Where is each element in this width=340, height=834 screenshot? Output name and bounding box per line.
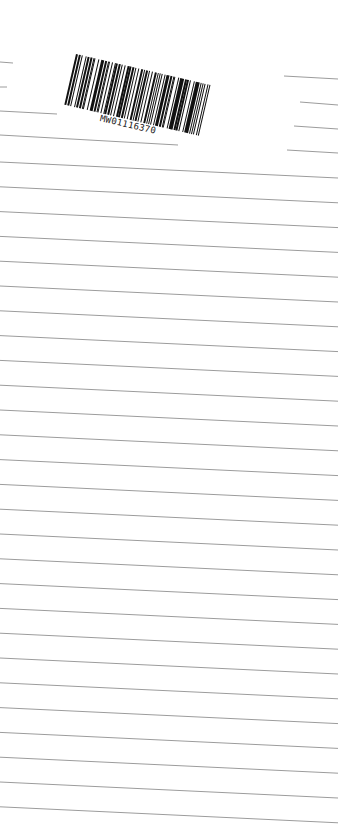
- ruled-line: [0, 336, 338, 352]
- ruled-line: [0, 360, 338, 376]
- partial-ruled-line: [294, 126, 338, 129]
- ruled-line: [0, 410, 338, 426]
- ruled-line: [0, 683, 338, 699]
- notepad-page: MW01116370: [0, 0, 340, 834]
- ruled-line: [0, 782, 338, 798]
- ruled-line: [0, 212, 338, 228]
- ruled-line: [0, 509, 338, 525]
- ruled-line: [0, 236, 338, 252]
- ruled-line: [0, 261, 338, 277]
- ruled-line: [0, 460, 338, 476]
- ruled-line: [0, 385, 338, 401]
- ruled-line: [0, 757, 338, 773]
- ruled-line: [0, 162, 338, 178]
- partial-ruled-line: [300, 102, 338, 105]
- ruled-line: [0, 187, 338, 203]
- ruled-line: [0, 559, 338, 575]
- ruled-line: [0, 484, 338, 500]
- ruled-line: [0, 633, 338, 649]
- ruled-line: [0, 311, 338, 327]
- partial-ruled-line: [0, 111, 57, 114]
- ruled-line: [0, 708, 338, 724]
- ruled-line: [0, 807, 338, 823]
- partial-ruled-line: [284, 76, 338, 79]
- partial-ruled-line: [287, 150, 338, 153]
- partial-ruled-line: [0, 62, 13, 63]
- ruled-line: [0, 534, 338, 550]
- ruled-line: [0, 584, 338, 600]
- ruled-line: [0, 286, 338, 302]
- ruled-line: [0, 658, 338, 674]
- ruled-line: [0, 732, 338, 748]
- ruled-line: [0, 435, 338, 451]
- ruled-line: [0, 608, 338, 624]
